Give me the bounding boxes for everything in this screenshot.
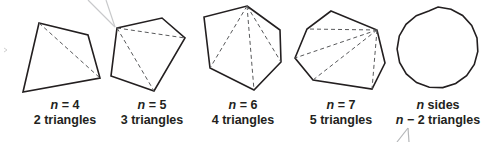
label-quadrilateral: n = 4 2 triangles [15, 98, 115, 128]
callout-lines-top [88, 0, 115, 27]
label-hexagon: n = 6 4 triangles [193, 98, 293, 128]
diagonal [307, 29, 377, 30]
hexagon-figure [204, 6, 281, 90]
var-n: n [51, 98, 59, 112]
pentagon-outline [111, 18, 185, 91]
diagonal [117, 28, 154, 91]
label-pentagon: n = 5 3 triangles [102, 98, 202, 128]
label-n-gon: n sides n − 2 triangles [388, 98, 488, 128]
heptagon-figure [295, 11, 385, 89]
n-gon-figure [397, 7, 478, 88]
diagonal [247, 6, 281, 62]
small-arrow-mark [4, 48, 7, 52]
var-n: n [396, 113, 404, 127]
heptagon-outline [295, 11, 385, 89]
var-n: n [229, 98, 237, 112]
callout-lines-bottom [397, 128, 409, 142]
var-n: n [138, 98, 146, 112]
var-n: n [327, 98, 335, 112]
quadrilateral-outline [23, 23, 100, 92]
n-gon-outline [397, 7, 478, 88]
quadrilateral-figure [23, 23, 100, 92]
label-heptagon: n = 7 5 triangles [291, 98, 391, 128]
diagonal [313, 30, 377, 80]
hexagon-outline [204, 6, 281, 90]
diagonal [247, 6, 254, 90]
diagonal [210, 6, 247, 68]
var-n: n [416, 98, 424, 112]
pentagon-figure [111, 18, 185, 91]
diagonal [295, 30, 377, 58]
